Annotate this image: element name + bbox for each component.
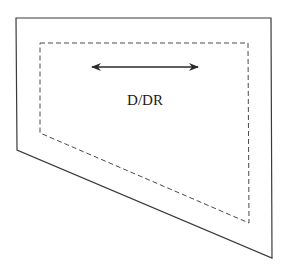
outer-boundary — [16, 18, 272, 258]
diagram-label: D/DR — [127, 92, 163, 108]
diagram-canvas: D/DR — [0, 0, 286, 278]
inner-dashed-boundary — [40, 43, 249, 223]
